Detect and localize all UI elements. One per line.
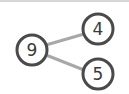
connector-whole-to-part-1 bbox=[46, 34, 84, 45]
part-node-1: 4 bbox=[83, 14, 113, 44]
number-bond-diagram: 9 4 5 bbox=[0, 0, 129, 94]
part-1-value: 4 bbox=[93, 19, 104, 39]
whole-node: 9 bbox=[17, 35, 47, 65]
whole-value: 9 bbox=[27, 40, 38, 60]
part-2-value: 5 bbox=[93, 64, 104, 84]
connector-whole-to-part-2 bbox=[46, 55, 84, 70]
part-node-2: 5 bbox=[83, 59, 113, 89]
